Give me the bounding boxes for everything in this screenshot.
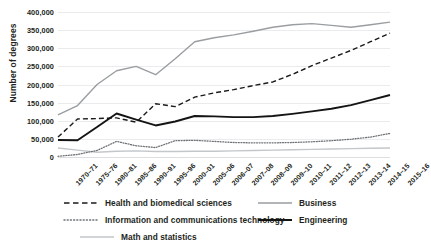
y-axis-tick-label: 100,000 [27, 116, 54, 125]
y-axis-tick-label: 0 [50, 153, 54, 162]
plot-area: 400,000350,000300,000250,000200,000150,0… [58, 12, 390, 157]
y-axis-tick-label: 50,000 [31, 134, 54, 143]
legend-item[interactable]: Engineering [258, 215, 348, 225]
y-axis-tick-label: 400,000 [27, 8, 54, 17]
solid-line-icon [80, 232, 114, 242]
y-axis-tick-label: 250,000 [27, 62, 54, 71]
chart-legend: Health and biomedical sciencesInformatio… [0, 196, 394, 248]
y-axis-title: Number of degrees [8, 8, 18, 118]
series-line [58, 22, 390, 115]
legend-item[interactable]: Business [258, 198, 336, 208]
y-axis-tick-label: 150,000 [27, 98, 54, 107]
legend-label: Math and statistics [121, 232, 197, 242]
legend-label: Engineering [299, 215, 348, 225]
legend-label: Business [299, 198, 336, 208]
series-line [58, 148, 390, 152]
series-line [58, 133, 390, 156]
y-axis-tick-label: 200,000 [27, 80, 54, 89]
series-lines [58, 12, 390, 157]
solid-line-icon [258, 198, 292, 208]
legend-item[interactable]: Math and statistics [80, 232, 197, 242]
legend-item[interactable]: Health and biomedical sciences [64, 198, 232, 208]
dashed-line-icon [64, 198, 98, 208]
legend-label: Health and biomedical sciences [105, 198, 232, 208]
legend-item[interactable]: Information and communications technolog… [64, 215, 285, 225]
y-axis-tick-label: 350,000 [27, 26, 54, 35]
y-axis-tick-label: 300,000 [27, 44, 54, 53]
dotted-line-icon [64, 215, 98, 225]
series-line [58, 33, 390, 137]
gridline [58, 157, 390, 158]
solid-line-icon [258, 215, 292, 225]
